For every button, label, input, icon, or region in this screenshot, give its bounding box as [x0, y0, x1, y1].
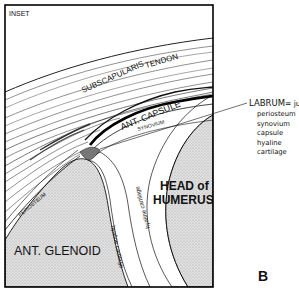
- labrum-component: capsule: [257, 129, 299, 139]
- shoulder-labrum-diagram: INSET SUBSCAPULARIS TENDON ANT. CAPSULE …: [0, 0, 299, 294]
- labrum-components: periosteum synovium capsule hyaline cart…: [257, 110, 299, 158]
- labrum-component: hyaline cartilage: [257, 139, 299, 158]
- inset-content: INSET SUBSCAPULARIS TENDON ANT. CAPSULE …: [5, 10, 214, 287]
- diagram-canvas: INSET SUBSCAPULARIS TENDON ANT. CAPSULE …: [0, 0, 299, 294]
- labrum-component: periosteum: [257, 110, 299, 120]
- tendon-label: TENDON: [144, 52, 179, 70]
- humerus-label-line2: HUMERUS: [153, 193, 214, 207]
- labrum-definition: = junction of: [285, 99, 299, 108]
- labrum-component: synovium: [257, 120, 299, 130]
- labrum-annotation: LABRUM= junction of: [249, 98, 299, 108]
- inset-label: INSET: [9, 10, 30, 17]
- humerus-label-line1: HEAD of: [160, 179, 210, 193]
- glenoid-label: ANT. GLENOID: [14, 244, 101, 258]
- panel-letter: B: [258, 268, 268, 284]
- labrum-title: LABRUM: [249, 98, 285, 108]
